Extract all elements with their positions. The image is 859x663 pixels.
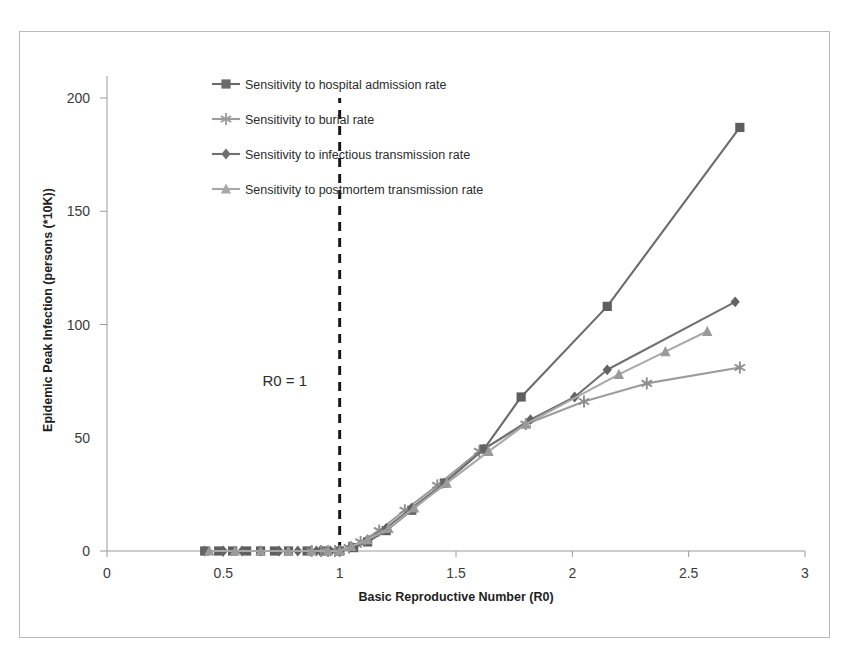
legend-label: Sensitivity to hospital admission rate	[245, 78, 447, 92]
r0-threshold-label: R0 = 1	[262, 372, 307, 389]
legend-entry-1[interactable]: Sensitivity to burial rate	[212, 113, 374, 127]
legend-label: Sensitivity to burial rate	[245, 113, 374, 127]
series-line	[205, 302, 735, 551]
y-axis-title: Epidemic Peak Infection (persons (*10K))	[41, 188, 55, 432]
legend-entry-0[interactable]: Sensitivity to hospital admission rate	[212, 78, 447, 92]
y-tick-label: 200	[67, 90, 91, 106]
chart-legend: Sensitivity to hospital admission rateSe…	[212, 78, 483, 197]
diamond-marker	[731, 296, 740, 307]
legend-entry-2[interactable]: Sensitivity to infectious transmission r…	[212, 148, 470, 162]
series-2	[200, 296, 740, 556]
square-marker	[221, 79, 230, 88]
annotations: R0 = 1	[262, 372, 307, 389]
series-3	[204, 326, 712, 556]
series-line	[209, 331, 707, 551]
legend-label: Sensitivity to infectious transmission r…	[245, 148, 470, 162]
x-tick-label: 2	[568, 565, 576, 581]
x-tick-label: 1.5	[446, 565, 466, 581]
y-tick-label: 50	[74, 430, 90, 446]
x-tick-label: 2.5	[679, 565, 699, 581]
triangle-marker	[702, 326, 712, 336]
y-tick-label: 100	[67, 317, 91, 333]
y-tick-label: 150	[67, 203, 91, 219]
epidemic-peak-infection-chart: 00.511.522.53050100150200 R0 = 1 Sensiti…	[0, 0, 859, 663]
triangle-marker	[614, 369, 624, 379]
square-marker	[603, 302, 612, 311]
y-tick-label: 0	[82, 543, 90, 559]
legend-entry-3[interactable]: Sensitivity to postmortem transmission r…	[212, 183, 483, 197]
x-tick-label: 1	[336, 565, 344, 581]
diamond-marker	[221, 149, 230, 160]
x-tick-label: 0.5	[214, 565, 234, 581]
x-axis-title: Basic Reproductive Number (R0)	[358, 590, 553, 604]
legend-label: Sensitivity to postmortem transmission r…	[245, 183, 483, 197]
x-tick-label: 0	[103, 565, 111, 581]
x-tick-label: 3	[801, 565, 809, 581]
square-marker	[735, 123, 744, 132]
square-marker	[517, 392, 526, 401]
triangle-marker	[660, 346, 670, 356]
series-line	[312, 368, 740, 551]
